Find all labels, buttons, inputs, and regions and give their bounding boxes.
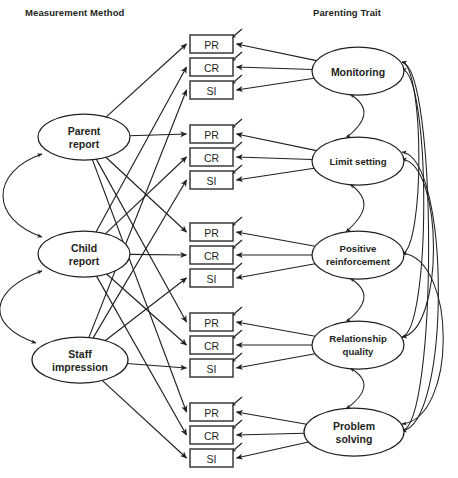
method-correlation-layer: [0, 154, 42, 343]
factor-loading-trait: [237, 67, 313, 70]
factor-loading-trait: [237, 322, 316, 336]
latent-label: impression: [52, 361, 108, 373]
indicator-label: SI: [207, 363, 217, 375]
indicator-box: PR: [190, 313, 233, 331]
latent-label: Child: [71, 242, 97, 254]
indicator-box: CR: [190, 148, 233, 166]
method-oval: Childreport: [38, 231, 130, 277]
factor-loading-method: [127, 364, 187, 369]
method-correlation-curve: [3, 154, 42, 237]
method-oval: Staffimpression: [32, 337, 128, 383]
indicator-label: SI: [207, 85, 217, 97]
latent-label: Staff: [68, 348, 92, 360]
factor-loading-trait: [237, 232, 316, 246]
indicator-label: PR: [204, 39, 219, 51]
indicator-label: CR: [204, 340, 220, 352]
indicator-box: SI: [190, 449, 233, 467]
indicator-label: PR: [204, 407, 219, 419]
factor-loading-method: [130, 134, 187, 136]
factor-loading-method: [106, 274, 186, 345]
factor-loading-trait: [237, 134, 317, 151]
trait-correlation-curve: [402, 152, 438, 431]
indicator-box: CR: [190, 58, 233, 76]
latent-label: report: [69, 138, 100, 150]
trait-oval: Problemsolving: [304, 408, 404, 456]
trait-correlation-curve: [346, 278, 364, 322]
trait-oval: Limit setting: [312, 137, 404, 185]
factor-loading-trait: [237, 78, 315, 90]
factor-loading-trait: [237, 168, 315, 180]
indicator-label: PR: [204, 129, 219, 141]
indicator-layer: PRCRSIPRCRSIPRCRSIPRCRSIPRCRSI: [190, 35, 233, 467]
indicator-label: CR: [204, 430, 220, 442]
latent-label: Monitoring: [331, 66, 385, 78]
method-correlation-curve: [0, 271, 42, 343]
latent-label: Parent: [68, 125, 101, 137]
trait-correlation-curve: [346, 94, 364, 138]
indicator-label: PR: [204, 227, 219, 239]
method-oval: Parentreport: [38, 114, 130, 160]
factor-loading-trait: [237, 442, 309, 458]
factor-loading-method: [130, 254, 187, 255]
indicator-box: CR: [190, 426, 233, 444]
latent-label: quality: [343, 346, 375, 357]
diagram-canvas: Measurement Method Parenting Trait PRCRS…: [0, 0, 458, 478]
trait-correlation-curve: [402, 62, 429, 431]
factor-loading-method: [106, 44, 187, 117]
latent-label: Limit setting: [329, 156, 386, 167]
trait-correlation-curve: [346, 184, 364, 232]
latent-label: reinforcement: [326, 256, 391, 267]
latent-label: Relationship: [329, 333, 387, 344]
indicator-box: PR: [190, 125, 233, 143]
latent-label: Problem: [333, 420, 375, 432]
indicator-label: CR: [204, 250, 220, 262]
factor-loading-trait: [237, 264, 316, 278]
indicator-box: SI: [190, 81, 233, 99]
factor-loading-trait: [237, 44, 317, 61]
indicator-label: SI: [207, 273, 217, 285]
indicator-box: PR: [190, 403, 233, 421]
indicator-label: PR: [204, 317, 219, 329]
trait-correlation-curve: [346, 368, 364, 409]
indicator-box: SI: [190, 269, 233, 287]
latent-label: report: [69, 255, 100, 267]
indicator-box: SI: [190, 359, 233, 377]
latent-label: Positive: [340, 243, 377, 254]
path-diagram-svg: PRCRSIPRCRSIPRCRSIPRCRSIPRCRSI Parentrep…: [0, 0, 458, 478]
factor-loading-method: [102, 380, 187, 458]
factor-loading-trait: [237, 157, 313, 160]
factor-loading-trait: [237, 354, 316, 368]
indicator-label: CR: [204, 62, 220, 74]
latent-label: solving: [336, 433, 373, 445]
indicator-label: SI: [207, 453, 217, 465]
trait-oval: Positivereinforcement: [312, 231, 404, 279]
trait-oval: Monitoring: [312, 47, 404, 95]
indicator-box: CR: [190, 336, 233, 354]
factor-loading-trait: [237, 412, 307, 424]
factor-loading-trait: [237, 433, 305, 435]
indicator-label: CR: [204, 152, 220, 164]
trait-oval: Relationshipquality: [312, 321, 404, 369]
indicator-label: SI: [207, 175, 217, 187]
indicator-box: SI: [190, 171, 233, 189]
indicator-box: PR: [190, 35, 233, 53]
trait-correlation-curve: [402, 253, 443, 424]
indicator-box: PR: [190, 223, 233, 241]
indicator-box: CR: [190, 246, 233, 264]
